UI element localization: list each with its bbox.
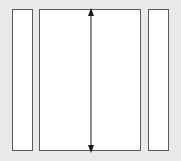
height-dimension-label [84, 155, 85, 156]
panel-left-label: Left Narrow Panel [13, 10, 14, 11]
diagram-canvas: Left Narrow Panel Center Wide Panel Righ… [0, 0, 181, 161]
panel-left[interactable]: Left Narrow Panel [12, 9, 33, 151]
panel-right-label: Right Narrow Panel [149, 10, 150, 11]
panel-center-label: Center Wide Panel [40, 10, 41, 11]
panel-right[interactable]: Right Narrow Panel [148, 9, 169, 151]
panel-center[interactable]: Center Wide Panel [39, 9, 141, 151]
